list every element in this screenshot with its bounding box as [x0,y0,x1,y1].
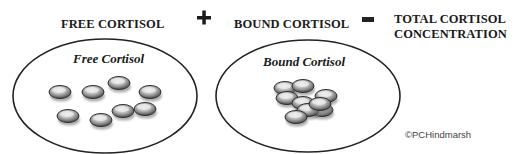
bound-cortisol-label: Bound Cortisol [263,54,345,70]
plus-icon [197,11,211,25]
total-cortisol-heading-line2: CONCENTRATION [394,27,507,42]
equals-icon [362,17,374,22]
free-cortisol-particles [49,77,162,130]
copyright-notice: ©PCHindmarsh [405,129,471,140]
free-cortisol-label: Free Cortisol [73,51,144,67]
cortisol-diagram: FREE CORTISOL BOUND CORTISOL TOTAL CORTI… [0,0,522,154]
bound-cortisol-heading: BOUND CORTISOL [234,17,349,32]
free-cortisol-heading: FREE CORTISOL [61,17,164,32]
bound-cortisol-particles [274,80,338,127]
total-cortisol-heading-line1: TOTAL CORTISOL [394,12,506,27]
